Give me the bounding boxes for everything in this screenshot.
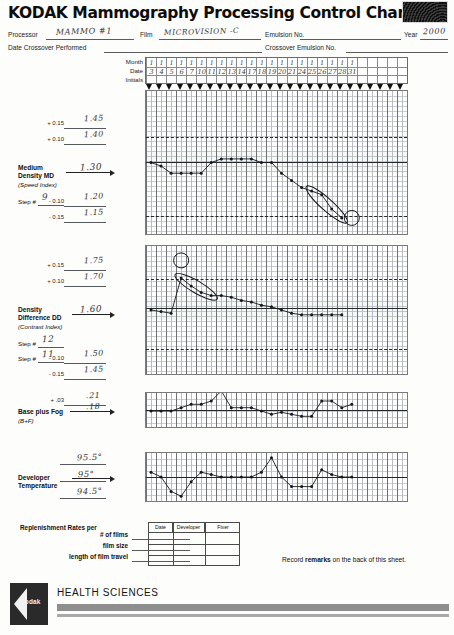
date-header-column[interactable]: 131 [347,58,357,83]
division-name: HEALTH SCIENCES [57,587,159,598]
date-header-column[interactable]: 125 [307,58,317,83]
trace-line [151,392,352,416]
date-header-date-cell: 17 [247,68,256,76]
date-header-date-cell: 26 [318,68,327,76]
date-header-column[interactable]: 120 [277,58,287,83]
data-point [160,410,163,413]
date-header-column[interactable]: 110 [196,58,206,83]
dd-tick-1-value[interactable]: 1.70 [84,272,104,282]
dd-aim-leader [72,314,110,315]
film-value[interactable]: MICROVISION -C [164,26,240,37]
data-point [180,172,183,175]
temp-tick-1-value[interactable]: 94.5° [76,486,102,497]
temp-aim-rule [60,481,106,482]
md-chart-panel[interactable] [145,90,408,235]
date-crossover-rule[interactable] [104,52,262,53]
processor-value[interactable]: MAMMO #1 [56,26,112,37]
date-header-column[interactable] [397,58,407,83]
date-header-column[interactable]: 14 [156,58,166,83]
date-header-column[interactable]: 124 [297,58,307,83]
kodak-wordmark: Kodak [20,598,41,605]
year-value[interactable]: 2000 [423,27,446,37]
dd-aim-value[interactable]: 1.60 [80,304,102,315]
md-tick-3-value[interactable]: 1.15 [84,208,104,218]
bf-tick-0-value[interactable]: .21 [86,391,101,400]
trace-line [151,159,342,218]
md-tick-0-value[interactable]: 1.45 [84,114,104,124]
date-header-month-cell: 1 [227,59,236,67]
dd-tick-0-value[interactable]: 1.75 [84,256,104,266]
data-point [330,400,333,403]
date-header-column[interactable]: 118 [256,58,266,83]
date-header-column[interactable]: 17 [186,58,196,83]
date-header-month-cell: 1 [167,59,176,67]
dd-tick-3-value[interactable]: 1.45 [84,365,104,375]
dd-tick-2-value[interactable]: 1.50 [84,349,104,359]
date-header-column[interactable] [377,58,387,83]
data-point [190,403,193,406]
date-header-column[interactable]: 117 [246,58,256,83]
year-rule [420,39,448,40]
temp-chart-panel[interactable] [145,452,408,502]
replenishment-table[interactable]: Date Developer Fixer [148,522,240,566]
replenishment-block: Replenishment Rates per # of films film … [20,524,128,564]
data-point [180,406,183,409]
data-point [220,476,223,479]
crossover-emulsion-rule[interactable] [346,52,448,53]
bf-chart-panel[interactable] [145,392,408,428]
date-header-column[interactable]: 13 [146,58,156,83]
kodak-swirl-icon [402,1,448,23]
date-header-column[interactable]: 112 [216,58,226,83]
date-header-column[interactable]: 126 [317,58,327,83]
dd-axis: + 0.15 1.75 + 0.10 1.70 Density Differen… [0,252,142,372]
data-point [170,172,173,175]
dd-tick-2-label: - 0.10 [49,355,64,361]
data-point [200,471,203,474]
data-point [200,403,203,406]
data-point [240,157,243,160]
date-header-column[interactable]: 16 [176,58,186,83]
date-header-column[interactable]: 127 [327,58,337,83]
date-header-column[interactable]: 113 [226,58,236,83]
date-header-column[interactable] [357,58,367,83]
data-point [150,471,153,474]
data-point [250,406,253,409]
bf-tick-0-label: + .03 [50,397,64,403]
temp-aim-value[interactable]: 95° [77,469,94,480]
md-step-value[interactable]: 9 [42,192,49,202]
date-header-column[interactable]: 15 [166,58,176,83]
date-header-month-cell: 1 [177,59,186,67]
data-point [160,476,163,479]
dd-step-value-1[interactable]: 12 [42,334,55,344]
date-header-column[interactable] [367,58,377,83]
bf-axis: + .03 .21 Base plus Fog (B+F) .18 [0,390,142,430]
md-aim-value[interactable]: 1.30 [80,162,102,173]
data-point [240,476,243,479]
date-header-grid[interactable]: 1314151617110111112113114117118119120121… [145,57,408,84]
date-header-date-cell: 18 [257,68,266,76]
dd-chart-panel[interactable] [145,245,408,375]
data-point [210,294,213,297]
md-tick-1-value[interactable]: 1.40 [84,130,104,140]
date-header-month-cell: 1 [217,59,226,67]
emulsion-no-label: Emulsion No. [265,31,304,38]
date-header-month-cell: 1 [338,59,347,67]
date-header-column[interactable]: 121 [287,58,297,83]
date-header-column[interactable]: 114 [236,58,246,83]
date-header-column[interactable]: 111 [206,58,216,83]
dd-title-line1: Density [18,306,42,314]
dd-step-rule-2 [38,362,64,363]
bf-aim-value[interactable]: .18 [86,402,101,411]
md-aim-leader [66,172,110,173]
date-header-column[interactable]: 119 [266,58,276,83]
date-label: Date [101,66,143,75]
data-point [310,190,313,193]
date-header-column[interactable]: 128 [337,58,347,83]
remarks-suffix: on the back of this sheet. [331,556,406,563]
md-tick-2-value[interactable]: 1.20 [84,192,104,202]
date-header-column[interactable] [387,58,397,83]
replenishment-table-hline-0 [149,532,239,533]
data-point [290,312,293,315]
temp-tick-0-value[interactable]: 95.5° [76,452,102,463]
data-point [240,406,243,409]
